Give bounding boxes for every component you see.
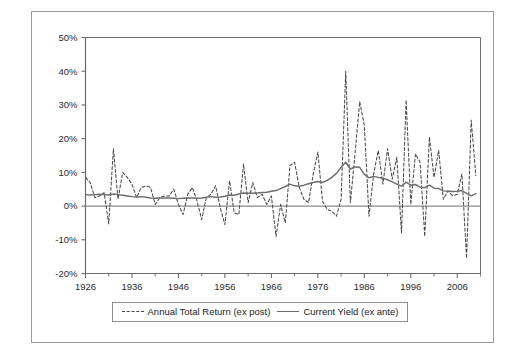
y-axis-tick-label: -10% <box>55 234 78 245</box>
x-axis-tick-label: 1966 <box>261 281 282 292</box>
y-axis-tick-label: 40% <box>58 66 78 77</box>
chart-figure: 50%40%30%20%10%0%-10%-20%192619361946195… <box>0 0 516 358</box>
legend-entry-current-yield: Current Yield (ex ante) <box>277 307 398 317</box>
legend-label-annual-total-return: Annual Total Return (ex post) <box>148 307 271 317</box>
y-axis-tick-label: 0% <box>64 200 78 211</box>
x-axis-tick-label: 1986 <box>354 281 375 292</box>
y-axis-tick-label: 50% <box>58 32 78 43</box>
solid-line-swatch-icon <box>277 308 299 316</box>
legend-entry-annual-total-return: Annual Total Return (ex post) <box>122 307 271 317</box>
x-axis-tick-label: 1926 <box>75 281 96 292</box>
y-axis-tick-label: 10% <box>58 167 78 178</box>
x-axis-tick-label: 1996 <box>400 281 421 292</box>
y-axis-tick-label: 30% <box>58 99 78 110</box>
chart-legend: Annual Total Return (ex post) Current Yi… <box>112 302 408 322</box>
series-line-current-yield <box>86 162 476 198</box>
x-axis-tick-label: 1956 <box>214 281 235 292</box>
x-axis-tick-label: 2006 <box>447 281 468 292</box>
x-axis-tick-label: 1946 <box>168 281 189 292</box>
series-line-annual-total-return <box>86 71 476 258</box>
y-axis-tick-label: 20% <box>58 133 78 144</box>
legend-label-current-yield: Current Yield (ex ante) <box>303 307 398 317</box>
x-axis-tick-label: 1976 <box>307 281 328 292</box>
x-axis-tick-label: 1936 <box>121 281 142 292</box>
y-axis-tick-label: -20% <box>55 268 78 279</box>
dashed-line-swatch-icon <box>122 308 144 316</box>
